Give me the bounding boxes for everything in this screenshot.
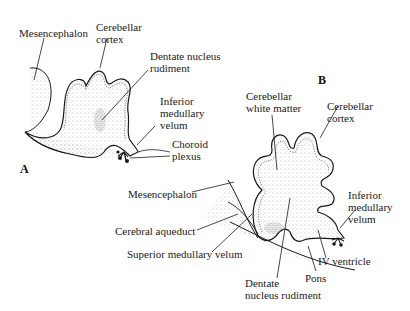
label-superior-velum: Superior medullary velum	[127, 248, 242, 260]
label-mesencephalon-b: Mesencephalon	[128, 188, 197, 200]
label-choroid-plexus-a: Choroid plexus	[172, 138, 208, 162]
label-dentate-b: Dentate nucleus rudiment	[245, 277, 321, 301]
panel-label-b: B	[318, 73, 326, 88]
panel-a-drawing	[25, 68, 170, 163]
label-cerebral-aqueduct: Cerebral aqueduct	[115, 225, 195, 237]
label-mesencephalon-a: Mesencephalon	[19, 27, 88, 39]
label-inferior-velum-b: Inferior medullary velum	[348, 189, 393, 225]
label-dentate-a: Dentate nucleus rudiment	[150, 50, 221, 74]
panel-label-a: A	[20, 162, 29, 177]
label-cortex-b: Cerebellar cortex	[327, 100, 373, 124]
label-white-matter-b: Cerebellar white matter	[246, 90, 301, 114]
label-iv-ventricle: IV ventricle	[318, 255, 371, 267]
label-cerebellar-cortex-a: Cerebellar cortex	[96, 21, 142, 45]
label-inferior-velum-a: Inferior medullary velum	[160, 95, 205, 131]
